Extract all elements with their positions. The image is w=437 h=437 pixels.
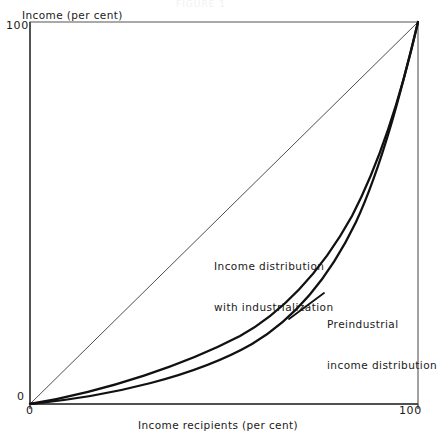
y-tick-label-0: 0 (17, 390, 24, 403)
annotation-preindustrial: Preindustrial income distribution (327, 291, 437, 399)
annotation-industrialization-line2: with industrialization (214, 301, 334, 315)
annotation-industrialization: Income distribution with industrializati… (214, 233, 334, 341)
y-tick-label-100: 100 (6, 19, 29, 32)
y-axis-label: Income (per cent) (22, 9, 123, 21)
annotation-preindustrial-line1: Preindustrial (327, 318, 437, 332)
x-axis-label: Income recipients (per cent) (138, 419, 298, 431)
x-tick-label-0: 0 (26, 404, 33, 417)
x-tick-label-100: 100 (399, 404, 422, 417)
tick-marks (30, 404, 418, 409)
annotation-preindustrial-line2: income distribution (327, 359, 437, 373)
annotation-industrialization-line1: Income distribution (214, 260, 334, 274)
